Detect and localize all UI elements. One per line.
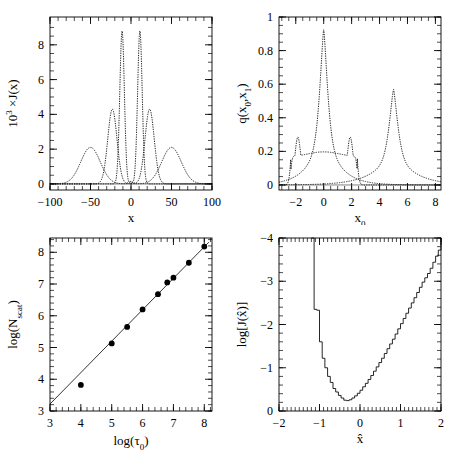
y-tick-label: 8 — [38, 245, 44, 259]
axis-ticks — [279, 238, 441, 411]
data-curves — [279, 30, 441, 185]
x-tick-label: −2 — [273, 416, 286, 430]
axis-ticks — [279, 17, 441, 190]
y-axis-label-text: log[J(x̂)] — [234, 302, 249, 348]
x-tick-label: 6 — [140, 416, 146, 430]
x-tick-label: 2 — [438, 416, 444, 430]
y-tick-label: 0 — [267, 404, 273, 418]
panel-bottom-right: −2−10120−1−2−3−4 x̂ log[J(x̂)] — [229, 224, 459, 451]
x-tick-label: 100 — [203, 195, 221, 209]
y-tick-label: 6 — [38, 309, 44, 323]
y-axis-label: log(Nscat) — [5, 300, 24, 349]
y-tick-label: 4 — [38, 107, 44, 121]
x-tick-label: 8 — [201, 416, 207, 430]
y-tick-label: 0.6 — [258, 77, 273, 91]
y-axis-label-text: q(x0,x1) — [234, 83, 253, 123]
data-curves — [50, 31, 212, 184]
x-axis-label: log(τ0) — [113, 433, 148, 451]
axis-tick-labels: −20246800.20.40.60.81 — [258, 10, 438, 209]
data-point — [140, 307, 146, 313]
x-tick-label: −1 — [313, 416, 326, 430]
y-tick-label: 4 — [38, 372, 44, 386]
x-tick-label: 1 — [398, 416, 404, 430]
data-points — [78, 244, 207, 388]
y-axis-label: q(x0,x1) — [234, 83, 253, 123]
fit-line-segment — [50, 242, 209, 404]
x-tick-label: 0 — [357, 416, 363, 430]
data-point — [171, 275, 177, 281]
y-tick-label: 7 — [38, 277, 44, 291]
panel-bottom-right-svg: −2−10120−1−2−3−4 x̂ log[J(x̂)] — [229, 224, 459, 451]
x-tick-label: −100 — [38, 195, 63, 209]
y-tick-label: 0.4 — [258, 111, 273, 125]
x-axis-label: x0 — [355, 210, 367, 225]
data-point — [164, 280, 170, 286]
y-tick-label: 3 — [38, 404, 44, 418]
y-tick-label: −4 — [260, 231, 273, 245]
y-tick-label: 8 — [38, 38, 44, 52]
data-point — [155, 291, 161, 297]
panel-top-right: −20246800.20.40.60.81 x0 q(x0,x1) — [229, 0, 459, 225]
y-tick-label: 5 — [38, 341, 44, 355]
panel-bottom-left: 345678345678 log(τ0) log(Nscat) — [0, 224, 230, 451]
panel-top-left-svg: −100−5005010002468 x 103 ×J(x) — [0, 0, 230, 225]
data-point — [124, 324, 130, 330]
y-tick-label: 6 — [38, 73, 44, 87]
curve-intermediate — [50, 109, 212, 184]
x-axis-label: x̂ — [357, 431, 364, 446]
y-tick-label: −1 — [260, 361, 273, 375]
y-tick-label: 0.2 — [258, 144, 273, 158]
x-tick-label: 0 — [128, 195, 134, 209]
plot-frame — [50, 17, 212, 190]
plot-frame — [279, 238, 441, 411]
fit-line — [50, 242, 209, 404]
data-point — [186, 260, 192, 266]
x-axis-label: x — [128, 210, 135, 225]
y-axis-label-text: log(Nscat) — [5, 300, 24, 349]
curve-central-cusp — [279, 30, 441, 185]
y-tick-label: 0 — [38, 177, 44, 191]
y-tick-label: 0.8 — [258, 44, 273, 58]
y-tick-label: 1 — [267, 10, 273, 24]
x-tick-label: −2 — [289, 195, 302, 209]
x-tick-label: −50 — [81, 195, 100, 209]
x-tick-label: 6 — [404, 195, 410, 209]
axis-tick-labels: 345678345678 — [38, 245, 207, 430]
histogram-step — [311, 238, 441, 401]
y-tick-label: −2 — [260, 318, 273, 332]
axis-ticks — [50, 17, 212, 190]
panel-bottom-left-svg: 345678345678 log(τ0) log(Nscat) — [0, 224, 230, 451]
histogram-outline — [311, 238, 441, 401]
x-tick-label: 2 — [349, 195, 355, 209]
y-tick-label: 0 — [267, 178, 273, 192]
data-point — [201, 244, 207, 250]
y-axis-label-text: 103 ×J(x) — [4, 79, 20, 127]
y-tick-label: −3 — [260, 274, 273, 288]
x-tick-label: 4 — [377, 195, 383, 209]
data-point — [109, 340, 115, 346]
panel-top-right-svg: −20246800.20.40.60.81 x0 q(x0,x1) — [229, 0, 459, 225]
x-tick-label: 4 — [78, 416, 84, 430]
y-axis-label: log[J(x̂)] — [234, 302, 249, 348]
curve-flat-top-horns — [279, 137, 441, 185]
x-tick-label: 0 — [321, 195, 327, 209]
x-tick-label: 8 — [432, 195, 438, 209]
x-tick-label: 7 — [170, 416, 176, 430]
x-tick-label: 50 — [166, 195, 178, 209]
plot-frame — [279, 17, 441, 190]
data-point — [78, 382, 84, 388]
y-axis-label: 103 ×J(x) — [4, 79, 20, 127]
x-tick-label: 3 — [47, 416, 53, 430]
curve-narrow — [50, 31, 212, 184]
panel-top-left: −100−5005010002468 x 103 ×J(x) — [0, 0, 230, 225]
figure-canvas: −100−5005010002468 x 103 ×J(x) −20246800… — [0, 0, 459, 451]
y-tick-label: 2 — [38, 142, 44, 156]
x-tick-label: 5 — [109, 416, 115, 430]
curve-broad — [50, 147, 212, 184]
